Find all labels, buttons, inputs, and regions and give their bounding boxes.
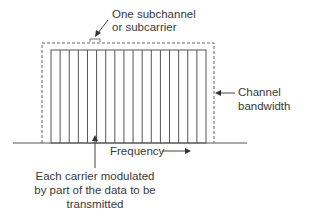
channel-label-line2: bandwidth [238,100,290,113]
carrier-label-line2: by part of the data to be [30,184,160,197]
subchannel-arrow [98,20,108,33]
subchannel-bracket [90,39,100,42]
channel-arrowhead-icon [215,90,221,96]
channel-label-line1: Channel [238,86,281,99]
subchannel-label-line1: One subchannel [112,8,196,21]
carrier-arrowhead-icon [92,135,98,141]
frequency-label: Frequency [110,145,164,158]
carrier-label-line3: transmitted [30,198,160,211]
carrier-label-line1: Each carrier modulated [30,170,160,183]
frequency-arrowhead-icon [185,148,191,154]
subchannel-label-line2: or subcarrier [112,21,177,34]
subcarrier-block [51,50,206,143]
subcarrier-lines [60,50,197,143]
